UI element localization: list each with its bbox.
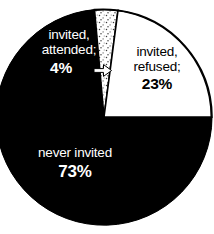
slice-label-invited-refused: invited, refused; 23%: [122, 44, 192, 93]
slice-percent-invited-refused: 23%: [122, 75, 192, 92]
slice-label-line-1: invited,: [122, 44, 192, 59]
slice-percent-never-invited: 73%: [22, 162, 128, 181]
slice-label-line-2: attended;: [30, 42, 108, 57]
slice-label-line-2: refused;: [122, 59, 192, 74]
arrow-right-icon: [93, 63, 113, 78]
slice-label-never-invited: never invited 73%: [22, 145, 128, 181]
slice-label-line-1: never invited: [22, 145, 128, 160]
pie-chart: invited, attended; 4% invited, refused; …: [0, 0, 214, 234]
slice-percent-invited-attended: 4%: [30, 59, 92, 76]
slice-label-line-1: invited,: [30, 27, 108, 42]
